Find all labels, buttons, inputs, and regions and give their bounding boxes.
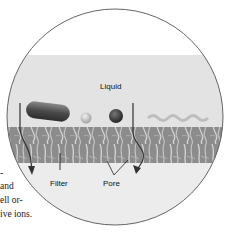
small-particle bbox=[81, 113, 92, 124]
filtrate-region bbox=[0, 163, 225, 233]
side-text-line-3: ell or- bbox=[0, 195, 23, 206]
side-text-line-2: and bbox=[0, 181, 14, 192]
large-particle bbox=[109, 109, 123, 123]
filter-membrane bbox=[0, 127, 225, 163]
filter-label: Filter bbox=[50, 179, 68, 188]
side-text-line-4: ive ions. bbox=[0, 209, 32, 220]
pore-label: Pore bbox=[103, 179, 120, 188]
filter-diagram: Liquid Filter Pore bbox=[0, 0, 225, 241]
liquid-label: Liquid bbox=[100, 82, 121, 91]
side-text-line-1: - bbox=[0, 168, 3, 179]
